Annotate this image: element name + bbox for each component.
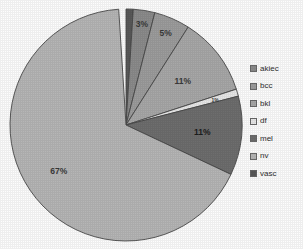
legend-swatch-icon-df <box>250 118 257 125</box>
legend-label: bcc <box>260 82 272 90</box>
legend-item-nv[interactable]: nv <box>250 148 302 166</box>
legend-item-df[interactable]: df <box>250 113 302 131</box>
slice-label-akiec: 3% <box>136 19 149 29</box>
legend-label: vasc <box>260 170 276 178</box>
pie-chart-figure: 3%5%11%1%11%67% akiecbccbkldfmelnvvasc <box>0 0 303 249</box>
legend-swatch-icon-bkl <box>250 100 257 107</box>
slice-label-bkl: 11% <box>175 76 192 86</box>
slice-label-bcc: 5% <box>159 28 172 38</box>
legend-swatch-icon-akiec <box>250 65 257 72</box>
chart-legend: akiecbccbkldfmelnvvasc <box>250 60 302 183</box>
slice-label-df: 1% <box>211 97 219 103</box>
slice-label-mel: 11% <box>194 127 211 137</box>
pie-slices-group <box>10 9 242 241</box>
legend-label: bkl <box>260 100 270 108</box>
pie-plot-area: 3%5%11%1%11%67% <box>6 6 246 244</box>
legend-item-akiec[interactable]: akiec <box>250 60 302 78</box>
legend-item-bkl[interactable]: bkl <box>250 95 302 113</box>
legend-label: akiec <box>260 65 279 73</box>
legend-label: mel <box>260 135 273 143</box>
legend-item-mel[interactable]: mel <box>250 130 302 148</box>
legend-item-vasc[interactable]: vasc <box>250 165 302 183</box>
legend-swatch-icon-bcc <box>250 83 257 90</box>
legend-swatch-icon-nv <box>250 153 257 160</box>
legend-label: nv <box>260 152 268 160</box>
legend-label: df <box>260 117 267 125</box>
legend-swatch-icon-mel <box>250 135 257 142</box>
legend-item-bcc[interactable]: bcc <box>250 78 302 96</box>
pie-svg: 3%5%11%1%11%67% <box>6 6 246 244</box>
legend-swatch-icon-vasc <box>250 170 257 177</box>
slice-label-nv: 67% <box>50 166 67 176</box>
